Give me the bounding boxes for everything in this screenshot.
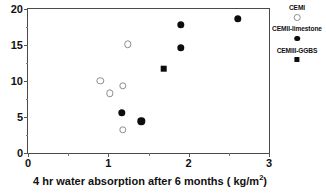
- y-minor-tick-12.5: [26, 63, 29, 64]
- legend-swatch-filled-circle-icon: [268, 33, 326, 42]
- data-point-cemii-limestone-3: [177, 44, 184, 51]
- legend-entry-cemi[interactable]: CEMI: [268, 4, 326, 20]
- y-tick-label-20: 20: [11, 4, 23, 15]
- data-point-cemii-limestone-4: [234, 15, 241, 22]
- open-circle-icon: [294, 14, 301, 21]
- data-point-cemi-0: [97, 77, 104, 84]
- legend-label-cemi: CEMI: [268, 4, 326, 11]
- legend-label-cemii-limestone: CEMII-limestone: [268, 25, 326, 32]
- data-point-cemi-2: [119, 82, 126, 89]
- y-tick-10: [24, 81, 28, 82]
- data-point-cemii-limestone-0: [118, 109, 125, 116]
- legend-label-cemiii-ggbs: CEMIII-GGBS: [268, 47, 326, 54]
- y-tick-label-10: 10: [11, 76, 23, 87]
- y-tick-label-15: 15: [11, 40, 23, 51]
- filled-circle-icon: [294, 36, 300, 42]
- y-minor-tick-7.5: [26, 99, 29, 100]
- y-tick-20: [24, 9, 28, 10]
- y-minor-tick-17.5: [26, 27, 29, 28]
- data-point-cemi-4: [119, 126, 126, 133]
- x-minor-tick-1.5: [149, 153, 150, 156]
- x-axis-title: 4 hr water absorption after 6 months ( k…: [0, 174, 300, 187]
- y-tick-label-5: 5: [17, 112, 23, 123]
- filled-square-icon: [294, 57, 299, 62]
- data-point-cemii-limestone-1: [138, 118, 145, 125]
- legend-swatch-filled-square-icon: [268, 54, 326, 63]
- x-tick-label-3: 3: [266, 158, 272, 169]
- x-axis-title-main: 4 hr water absorption after 6 months ( k…: [33, 175, 259, 187]
- x-minor-tick-2.5: [229, 153, 230, 156]
- plot-area: 051015200123: [27, 8, 270, 154]
- x-axis-title-tail: ): [263, 175, 267, 187]
- data-point-cemii-limestone-2: [177, 21, 184, 28]
- y-tick-5: [24, 117, 28, 118]
- legend-entry-cemiii-ggbs[interactable]: CEMIII-GGBS: [268, 47, 326, 63]
- y-tick-label-0: 0: [17, 148, 23, 159]
- x-tick-label-0: 0: [25, 158, 31, 169]
- x-tick-label-1: 1: [105, 158, 111, 169]
- y-minor-tick-2.5: [26, 135, 29, 136]
- scatter-chart-figure: 051015200123 4 hr water absorption after…: [0, 0, 326, 196]
- legend: CEMICEMII-limestoneCEMIII-GGBS: [268, 4, 326, 68]
- data-point-cemiii-ggbs-0: [160, 65, 167, 72]
- legend-swatch-open-circle-icon: [268, 11, 326, 20]
- x-tick-label-2: 2: [186, 158, 192, 169]
- legend-entry-cemii-limestone[interactable]: CEMII-limestone: [268, 25, 326, 41]
- y-tick-15: [24, 45, 28, 46]
- x-minor-tick-0.5: [68, 153, 69, 156]
- data-point-cemi-1: [106, 90, 113, 97]
- data-point-cemi-3: [124, 41, 131, 48]
